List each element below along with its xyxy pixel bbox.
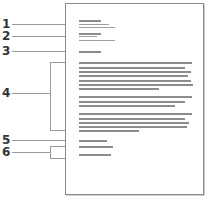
address-line bbox=[79, 36, 97, 37]
document-page bbox=[65, 3, 204, 195]
body-line bbox=[79, 80, 191, 82]
callout-line-6 bbox=[12, 152, 50, 153]
body-line bbox=[79, 71, 191, 73]
body-line bbox=[79, 88, 159, 90]
signature-line bbox=[79, 146, 113, 148]
callout-line-4 bbox=[12, 93, 50, 94]
address-line bbox=[79, 33, 101, 35]
date-line bbox=[79, 51, 101, 53]
body-line bbox=[79, 113, 192, 115]
callout-bracket-4 bbox=[50, 62, 51, 130]
address-line bbox=[79, 40, 115, 41]
body-line bbox=[79, 67, 185, 69]
body-line bbox=[79, 84, 193, 86]
header-line bbox=[79, 24, 109, 25]
body-line bbox=[79, 101, 185, 103]
callout-label-6: 6 bbox=[2, 146, 10, 158]
body-line bbox=[79, 105, 175, 107]
body-line bbox=[79, 118, 185, 120]
signature-line bbox=[79, 154, 111, 156]
callout-label-4: 4 bbox=[2, 87, 10, 99]
closing-line bbox=[79, 140, 107, 142]
callout-label-3: 3 bbox=[2, 45, 10, 57]
header-line bbox=[79, 27, 115, 28]
body-line bbox=[79, 122, 189, 124]
body-line bbox=[79, 126, 187, 128]
body-line bbox=[79, 75, 188, 77]
body-line bbox=[79, 96, 192, 98]
callout-label-2: 2 bbox=[2, 30, 10, 42]
body-line bbox=[79, 62, 192, 64]
header-line bbox=[79, 20, 101, 22]
body-line bbox=[79, 130, 139, 132]
